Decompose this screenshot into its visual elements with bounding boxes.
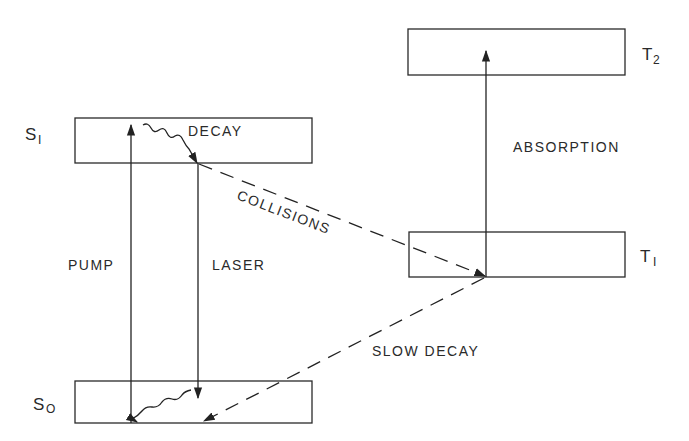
- slow-decay-label: SLOW DECAY: [372, 343, 479, 359]
- decay-label: DECAY: [188, 123, 243, 139]
- level-t2-label: T 2: [642, 45, 660, 67]
- s0-relax-wavy-arrow: [132, 390, 191, 422]
- level-s0-label: S O: [33, 395, 55, 416]
- svg-text:I: I: [653, 255, 656, 269]
- level-s0-box: [75, 381, 312, 423]
- svg-text:S: S: [25, 125, 36, 144]
- energy-level-diagram: S I S O T 2 T I DECAY PUMP LASER COLLISI…: [0, 0, 689, 441]
- laser-label: LASER: [212, 257, 265, 273]
- svg-text:S: S: [33, 395, 44, 414]
- svg-text:T: T: [640, 247, 650, 266]
- collisions-label: COLLISIONS: [235, 187, 333, 237]
- level-s1-label: S I: [25, 125, 41, 147]
- pump-label: PUMP: [68, 257, 114, 273]
- svg-text:T: T: [642, 45, 652, 64]
- absorption-label: ABSORPTION: [513, 139, 620, 155]
- svg-text:O: O: [46, 402, 55, 416]
- svg-text:2: 2: [653, 53, 660, 67]
- level-t1-label: T I: [640, 247, 656, 269]
- svg-text:I: I: [38, 133, 41, 147]
- level-t1-box: [409, 232, 625, 277]
- level-t2-box: [408, 29, 625, 75]
